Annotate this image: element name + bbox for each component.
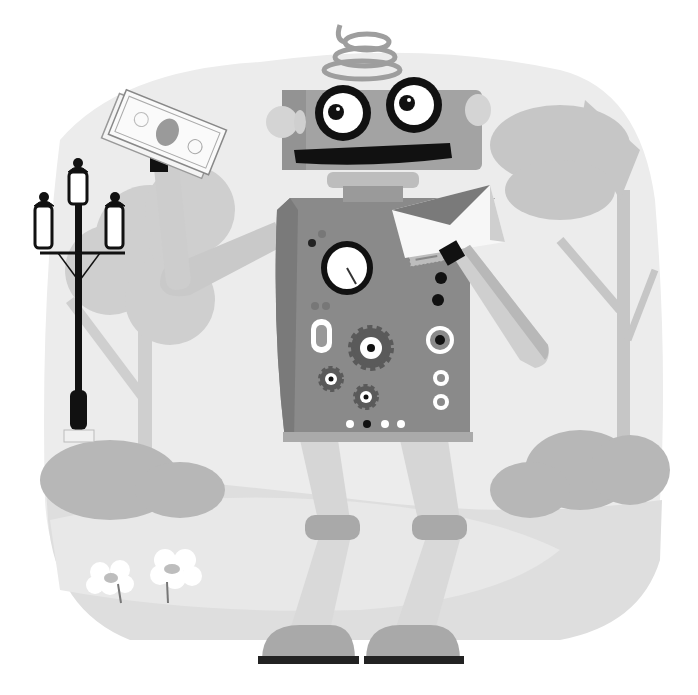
lamp-head-left [34,192,54,248]
robot-head [266,25,491,170]
robot-eye-right [386,77,442,133]
gear-icon-large [351,328,391,368]
robot-illustration [0,0,698,695]
gear-icon-small-1 [320,368,342,390]
gear-icon-small-2 [355,386,377,408]
robot-eye-left [315,85,371,141]
